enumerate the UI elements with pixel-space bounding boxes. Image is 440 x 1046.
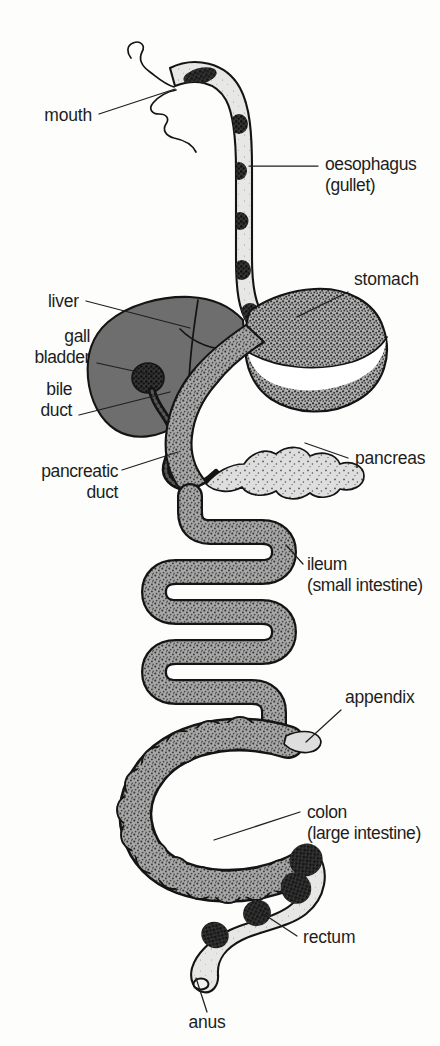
label-oesophagus-line-0: oesophagus <box>325 154 417 174</box>
label-oesophagus: oesophagus(gullet) <box>325 154 417 195</box>
label-bile-duct: bileduct <box>41 379 73 420</box>
label-oesophagus-line-1: (gullet) <box>325 175 375 195</box>
label-gall-bladder: gallbladder <box>34 326 90 367</box>
digestive-system-diagram: mouthoesophagus(gullet)stomachlivergallb… <box>0 0 440 1046</box>
label-anus-line-0: anus <box>188 1012 226 1032</box>
label-ileum-line-1: (small intestine) <box>307 575 423 595</box>
label-rectum: rectum <box>303 927 355 947</box>
label-gall-bladder-line-0: gall <box>64 326 90 346</box>
label-bile-duct-line-1: duct <box>41 400 73 420</box>
label-appendix-line-0: appendix <box>345 687 415 707</box>
label-mouth-line-0: mouth <box>44 105 92 125</box>
digestive-system-illustration: mouthoesophagus(gullet)stomachlivergallb… <box>0 0 440 1046</box>
label-pancreas: pancreas <box>355 448 426 468</box>
label-stomach-line-0: stomach <box>354 269 419 289</box>
label-colon-line-0: colon <box>307 802 347 822</box>
mouth-cavity <box>128 42 196 152</box>
rectum-tube <box>191 837 329 992</box>
anus-opening <box>194 979 209 990</box>
label-pancreatic-duct-line-1: duct <box>87 482 119 502</box>
colon-loop <box>117 717 304 903</box>
label-gall-bladder-line-1: bladder <box>34 347 90 367</box>
leader-line-mouth <box>99 89 175 114</box>
label-appendix: appendix <box>345 687 415 707</box>
label-liver-line-0: liver <box>48 291 79 311</box>
label-pancreatic-duct-line-0: pancreatic <box>41 461 118 481</box>
label-colon-line-1: (large intestine) <box>307 823 421 843</box>
label-bile-duct-line-0: bile <box>46 379 72 399</box>
label-ileum-line-0: ileum <box>307 554 347 574</box>
label-ileum: ileum(small intestine) <box>307 554 423 595</box>
leader-line-colon <box>214 812 300 840</box>
label-colon: colon(large intestine) <box>307 802 421 843</box>
label-pancreatic-duct: pancreaticduct <box>41 461 118 502</box>
label-pancreas-line-0: pancreas <box>355 448 426 468</box>
label-mouth: mouth <box>44 105 92 125</box>
leader-line-appendix <box>306 710 341 742</box>
label-stomach: stomach <box>354 269 419 289</box>
label-rectum-line-0: rectum <box>303 927 355 947</box>
ileum-coils <box>154 496 284 726</box>
label-liver: liver <box>48 291 79 311</box>
oesophagus-tube <box>170 62 264 324</box>
gall-bladder-sac <box>132 363 164 393</box>
label-anus: anus <box>188 1012 226 1032</box>
